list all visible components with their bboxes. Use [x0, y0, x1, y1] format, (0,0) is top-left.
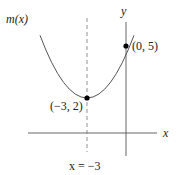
- asymptote-label: x = −3: [69, 159, 101, 173]
- y-intercept-label: (0, 5): [132, 39, 158, 53]
- x-axis-label: x: [162, 126, 169, 140]
- vertex-label: (−3, 2): [50, 99, 83, 113]
- function-label: m(x): [6, 12, 28, 26]
- y-axis-label: y: [120, 4, 127, 18]
- vertex-point: [84, 95, 89, 100]
- y-intercept-point: [123, 43, 128, 48]
- parabola-graph: m(x) y x (0, 5) (−3, 2) x = −3: [0, 0, 178, 175]
